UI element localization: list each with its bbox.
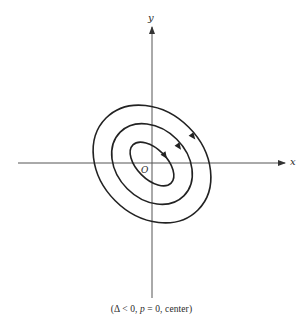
caption: (Δ < 0, p = 0, center) — [0, 305, 303, 315]
caption-type: center — [165, 304, 189, 314]
x-axis-label: x — [290, 157, 296, 167]
caption-delta: Δ < 0, — [114, 304, 140, 314]
caption-close: ) — [189, 304, 192, 314]
caption-p-value: = 0, — [145, 304, 165, 314]
direction-arrows — [161, 132, 198, 160]
y-axis-label: y — [148, 13, 154, 23]
phase-portrait-diagram — [0, 0, 303, 327]
origin-label: O — [141, 166, 148, 175]
arrow-icon-middle — [175, 142, 184, 151]
